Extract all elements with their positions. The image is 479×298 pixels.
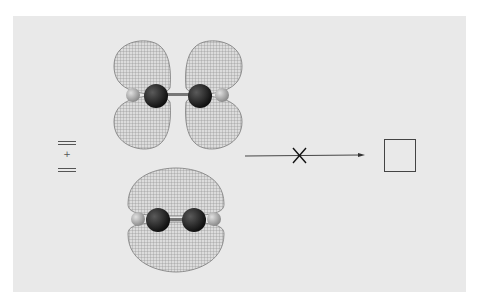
orbital-top-icon — [108, 36, 248, 156]
crossed-arrow-icon — [244, 145, 366, 169]
acetylene-bottom-molecule — [120, 164, 232, 276]
product-cyclobutadiene-square — [384, 139, 416, 172]
acetylene-top-molecule — [108, 36, 248, 156]
double-bond-top-line-1 — [58, 141, 76, 142]
reactant-notation: + — [55, 138, 79, 176]
double-bond-top-line-2 — [58, 144, 76, 145]
double-bond-bottom-line-2 — [58, 171, 76, 172]
forbidden-reaction-arrow — [244, 145, 366, 169]
orbital-bottom-icon — [120, 164, 232, 276]
double-bond-bottom-line-1 — [58, 168, 76, 169]
plus-sign: + — [55, 149, 79, 159]
